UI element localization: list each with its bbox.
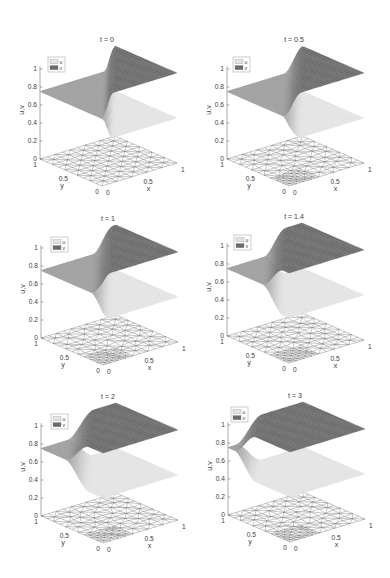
z-axis-label: u,v <box>18 462 27 472</box>
figure: 00.20.40.60.8100.5100.51xyu,vuvt = 000.2… <box>0 0 390 578</box>
y-tick-label: 1 <box>33 161 37 168</box>
legend-swatch-u <box>236 238 244 242</box>
subplot-5: 00.20.40.60.8100.5100.51xyu,vuvt = 2 <box>18 393 186 553</box>
legend-swatch-u <box>53 240 61 244</box>
legend: uv <box>233 57 250 72</box>
z-tick-label: 0.8 <box>29 262 38 269</box>
plot-title: t = 2 <box>101 393 115 400</box>
y-axis-label: y <box>247 358 251 367</box>
y-tick-label: 0 <box>282 365 286 372</box>
x-tick-label: 0 <box>107 546 111 553</box>
x-tick-label: 1 <box>182 345 186 352</box>
z-tick-label: 0.8 <box>215 260 224 267</box>
legend: uv <box>51 414 68 429</box>
legend-swatch-v <box>53 423 61 427</box>
x-tick-label: 0 <box>293 189 297 196</box>
legend: uv <box>234 235 251 250</box>
z-tick-label: 1 <box>34 422 38 429</box>
x-tick-label: 1 <box>368 343 372 350</box>
z-axis-label: u,v <box>18 284 27 294</box>
legend-swatch-v <box>53 246 61 250</box>
plot-title: t = 0 <box>100 36 114 43</box>
legend-swatch-u <box>233 410 241 414</box>
legend-swatch-v <box>233 416 241 420</box>
y-axis-label: y <box>61 538 65 547</box>
legend: uv <box>231 407 248 422</box>
subplot-6: 00.20.40.60.8100.5100.51xyu,vuvt = 3 <box>205 392 373 552</box>
z-tick-label: 1 <box>34 244 38 251</box>
x-axis-label: x <box>335 540 339 549</box>
x-tick-label: 0 <box>106 189 110 196</box>
x-axis-label: x <box>334 184 338 193</box>
y-tick-label: 0 <box>95 188 99 195</box>
legend-swatch-u <box>53 417 61 421</box>
plot-title: t = 1 <box>101 215 115 222</box>
z-tick-label: 0.6 <box>215 278 224 285</box>
z-tick-label: 0.6 <box>216 457 225 464</box>
z-axis-label: u,v <box>17 105 26 115</box>
y-tick-label: 1 <box>34 340 38 347</box>
x-tick-label: 1 <box>369 522 373 529</box>
z-tick-label: 0.2 <box>29 494 38 501</box>
legend-swatch-v <box>50 66 58 70</box>
z-tick-label: 1 <box>220 65 224 72</box>
x-axis-label: x <box>148 363 152 372</box>
z-tick-label: 0.6 <box>28 101 37 108</box>
z-axis-label: u,v <box>205 461 214 471</box>
y-tick-label: 0 <box>283 544 287 551</box>
surface-u <box>228 445 365 497</box>
subplot-2: 00.20.40.60.8100.5100.51xyu,vuvt = 0.5 <box>204 36 372 196</box>
x-tick-label: 0 <box>107 368 111 375</box>
z-tick-label: 1 <box>33 65 37 72</box>
y-tick-label: 1 <box>221 517 225 524</box>
y-axis-label: y <box>248 537 252 546</box>
plot-title: t = 1.4 <box>284 213 304 220</box>
y-tick-label: 0 <box>282 188 286 195</box>
x-tick-label: 1 <box>181 166 185 173</box>
legend-swatch-v <box>236 244 244 248</box>
z-tick-label: 0.6 <box>29 280 38 287</box>
surface-v <box>228 402 365 452</box>
subplot-1: 00.20.40.60.8100.5100.51xyu,vuvt = 0 <box>17 36 185 196</box>
z-tick-label: 0.2 <box>215 314 224 321</box>
z-tick-label: 1 <box>221 421 225 428</box>
z-axis-label: u,v <box>204 105 213 115</box>
x-tick-label: 0 <box>294 545 298 552</box>
y-tick-label: 0 <box>96 367 100 374</box>
legend: uv <box>51 237 68 252</box>
subplot-3: 00.20.40.60.8100.5100.51xyu,vuvt = 1 <box>18 215 186 375</box>
legend-swatch-u <box>235 60 243 64</box>
z-tick-label: 0.8 <box>215 83 224 90</box>
legend: uv <box>48 57 65 72</box>
z-tick-label: 0.8 <box>216 439 225 446</box>
y-tick-label: 1 <box>34 518 38 525</box>
z-tick-label: 0.4 <box>28 119 37 126</box>
y-axis-label: y <box>247 181 251 190</box>
plot-title: t = 0.5 <box>284 36 304 43</box>
z-tick-label: 0.4 <box>29 298 38 305</box>
z-axis-label: u,v <box>204 282 213 292</box>
legend-swatch-u <box>50 60 58 64</box>
x-axis-label: x <box>334 361 338 370</box>
z-tick-label: 0.4 <box>29 476 38 483</box>
y-axis-label: y <box>60 181 64 190</box>
z-tick-label: 0.2 <box>215 137 224 144</box>
z-tick-label: 0.4 <box>215 119 224 126</box>
y-tick-label: 0 <box>96 545 100 552</box>
z-tick-label: 0.2 <box>216 493 225 500</box>
z-tick-label: 0.2 <box>28 137 37 144</box>
z-tick-label: 0.2 <box>29 316 38 323</box>
z-tick-label: 1 <box>220 242 224 249</box>
z-tick-label: 0.4 <box>215 296 224 303</box>
subplot-4: 00.20.40.60.8100.5100.51xyu,vuvt = 1.4 <box>204 213 372 373</box>
figure-canvas: 00.20.40.60.8100.5100.51xyu,vuvt = 000.2… <box>0 0 390 578</box>
x-axis-label: x <box>147 184 151 193</box>
z-tick-label: 0.8 <box>29 440 38 447</box>
z-tick-label: 0.8 <box>28 83 37 90</box>
y-tick-label: 1 <box>220 338 224 345</box>
y-axis-label: y <box>61 360 65 369</box>
x-tick-label: 1 <box>368 166 372 173</box>
z-tick-label: 0.6 <box>29 458 38 465</box>
y-tick-label: 1 <box>220 161 224 168</box>
legend-swatch-v <box>235 66 243 70</box>
